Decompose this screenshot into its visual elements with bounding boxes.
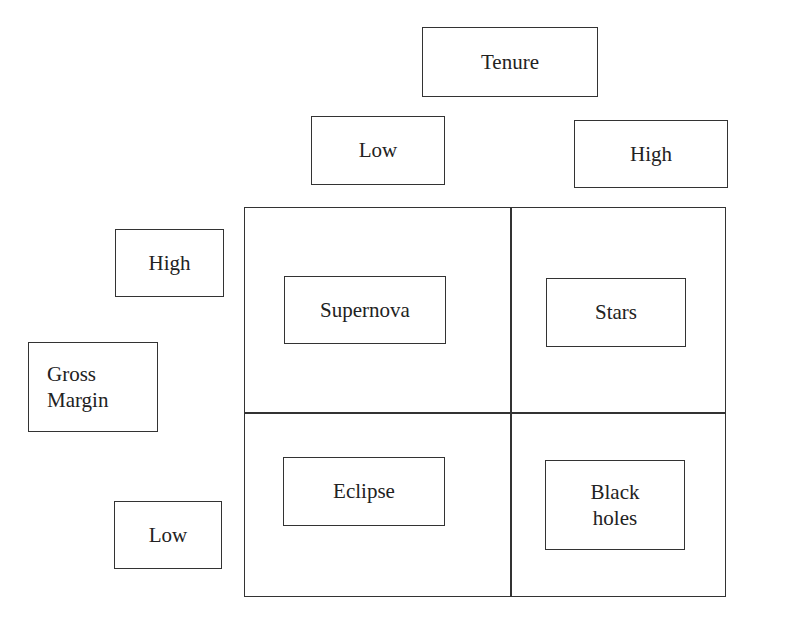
x-axis-low-box: Low [311, 116, 445, 185]
y-axis-low-box: Low [114, 501, 222, 569]
y-axis-high-box: High [115, 229, 224, 297]
y-axis-high-label: High [149, 250, 191, 276]
quadrant-top-right-label: Stars [595, 299, 637, 325]
quadrant-bottom-left-label: Eclipse [333, 478, 395, 504]
horizontal-divider [245, 412, 725, 414]
x-axis-title-box: Tenure [422, 27, 598, 97]
quadrant-bottom-left-box: Eclipse [283, 457, 445, 526]
quadrant-bottom-right-label: Black holes [591, 479, 640, 532]
x-axis-high-label: High [630, 141, 672, 167]
quadrant-top-right-box: Stars [546, 278, 686, 347]
vertical-divider [510, 208, 512, 596]
y-axis-title: Gross Margin [47, 361, 108, 414]
x-axis-low-label: Low [359, 137, 398, 163]
x-axis-title: Tenure [481, 49, 539, 75]
y-axis-low-label: Low [149, 522, 188, 548]
quadrant-top-left-label: Supernova [320, 297, 410, 323]
x-axis-high-box: High [574, 120, 728, 188]
y-axis-title-box: Gross Margin [28, 342, 158, 432]
quadrant-top-left-box: Supernova [284, 276, 446, 344]
quadrant-bottom-right-box: Black holes [545, 460, 685, 550]
